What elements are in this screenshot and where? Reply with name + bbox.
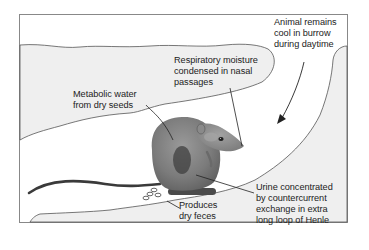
label-metabolic: Metabolic water from dry seeds: [73, 89, 137, 111]
label-urine: Urine concentrated by countercurrent exc…: [256, 182, 333, 226]
rat-ear: [197, 124, 205, 134]
rat-cheek: [204, 133, 218, 142]
label-respiratory: Respiratory moisture condensed in nasal …: [174, 55, 258, 88]
label-burrow-cool: Animal remains cool in burrow during day…: [274, 17, 337, 50]
rat-eye: [218, 137, 223, 141]
rat-haunch-shadow: [173, 146, 191, 174]
label-feces: Produces dry feces: [179, 200, 217, 222]
rat-eye-highlight: [220, 138, 221, 139]
